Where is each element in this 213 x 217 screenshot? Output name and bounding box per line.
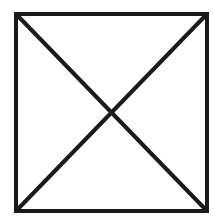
diagram-canvas [0, 0, 213, 217]
